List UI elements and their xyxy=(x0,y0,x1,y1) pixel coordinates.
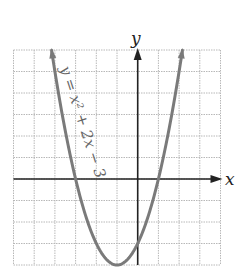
x-axis-label: x xyxy=(225,169,235,189)
y-axis-label: y xyxy=(130,28,141,48)
parabola-graph: y x y = x² + 2x − 3 xyxy=(0,0,248,267)
axes xyxy=(14,48,223,265)
grid xyxy=(14,50,221,265)
